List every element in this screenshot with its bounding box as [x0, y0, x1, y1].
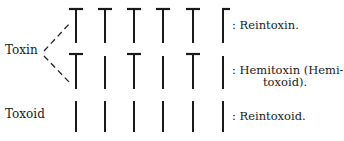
caption-reintoxin: : Reintoxin.: [232, 19, 299, 31]
caption-hemitoxin-line2: toxoid).: [263, 76, 307, 88]
receptor-bar-with-cap: [69, 54, 83, 89]
brace-upper-dashed-line: [44, 22, 71, 51]
receptor-bar-with-cap: [186, 54, 200, 89]
toxin-branch-brace: [44, 22, 71, 84]
receptor-bar-with-cap: [98, 9, 112, 43]
receptor-bar-with-cap: [127, 9, 141, 43]
toxoid-label: Toxoid: [5, 108, 45, 121]
receptor-bar-with-cap: [222, 9, 230, 43]
receptor-bar-with-cap: [69, 9, 83, 43]
brace-lower-dashed-line: [44, 56, 71, 84]
receptor-bar-with-cap: [127, 54, 141, 89]
toxin-label: Toxin: [5, 44, 38, 57]
caption-reintoxoid: : Reintoxoid.: [232, 110, 306, 122]
receptor-bar-with-cap: [156, 9, 170, 43]
receptor-bar-with-cap: [186, 9, 200, 43]
